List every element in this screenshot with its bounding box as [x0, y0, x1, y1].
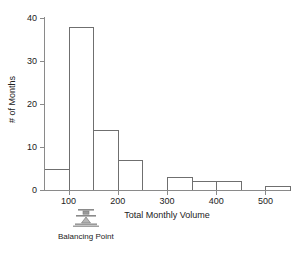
x-axis-tick-label: 400 — [196, 197, 236, 206]
histogram-bar — [93, 130, 119, 191]
x-axis-tick-label: 200 — [98, 197, 138, 206]
y-axis-title: # of Months — [8, 55, 17, 145]
y-axis-tick-label: 30 — [0, 57, 37, 66]
histogram-bar — [118, 160, 144, 191]
balancing-point-fulcrum-icon — [73, 208, 99, 228]
x-axis-tick-label: 300 — [147, 197, 187, 206]
y-axis-tick-label: 40 — [0, 14, 37, 23]
histogram-chart: 010203040 100200300400500 # of Months To… — [0, 0, 301, 257]
balancing-point-label: Balancing Point — [41, 232, 131, 241]
x-axis-tick — [69, 190, 70, 195]
x-axis-tick-label: 500 — [245, 197, 285, 206]
histogram-bar — [44, 169, 70, 192]
y-axis-tick — [40, 190, 45, 191]
x-axis-tick — [265, 190, 266, 195]
x-axis-tick — [167, 190, 168, 195]
x-axis-tick — [216, 190, 217, 195]
plot-area: 010203040 100200300400500 # of Months To… — [0, 0, 301, 257]
y-axis-tick-label: 10 — [0, 143, 37, 152]
y-axis-tick — [40, 147, 45, 148]
histogram-bar — [69, 27, 95, 191]
y-axis-tick — [40, 18, 45, 19]
y-axis-tick — [40, 61, 45, 62]
y-axis-tick — [40, 104, 45, 105]
y-axis-tick-label: 0 — [0, 186, 37, 195]
x-axis-tick-label: 100 — [49, 197, 89, 206]
histogram-bar — [167, 177, 193, 191]
x-axis-tick — [118, 190, 119, 195]
